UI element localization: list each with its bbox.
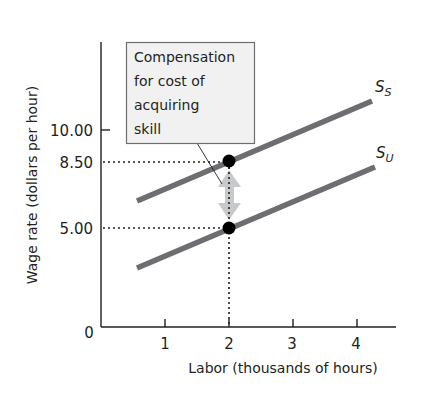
x-axis-title: Labor (thousands of hours) <box>188 360 377 376</box>
x-tick-label-2: 2 <box>224 335 234 353</box>
callout-line-4: skill <box>134 121 161 137</box>
origin-label: 0 <box>84 324 94 342</box>
y-tick-labels: 10.00 8.50 5.00 0 <box>50 122 94 342</box>
y-tick-label-10: 10.00 <box>50 122 93 140</box>
callout: Compensation for cost of acquiring skill <box>127 43 255 185</box>
x-tick-label-1: 1 <box>160 335 170 353</box>
unskilled-supply-curve <box>137 167 375 268</box>
callout-line-1: Compensation <box>134 49 235 65</box>
skilled-curve-label: SS <box>375 78 392 99</box>
skilled-equilibrium-point <box>223 155 236 168</box>
x-tick-label-3: 3 <box>287 335 297 353</box>
y-tick-label-5-00: 5.00 <box>60 220 93 238</box>
wage-supply-chart: 10.00 8.50 5.00 0 1 2 3 4 Labor (thousan… <box>0 0 424 398</box>
unskilled-equilibrium-point <box>223 222 236 235</box>
x-tick-labels: 1 2 3 4 <box>160 335 361 353</box>
unskilled-curve-label: SU <box>376 144 394 165</box>
callout-line-2: for cost of <box>134 73 206 89</box>
x-tick-label-4: 4 <box>351 335 361 353</box>
y-axis-title: Wage rate (dollars per hour) <box>24 86 40 284</box>
callout-line-3: acquiring <box>134 97 199 113</box>
y-tick-label-8-50: 8.50 <box>60 154 93 172</box>
double-arrow-icon <box>218 162 241 228</box>
